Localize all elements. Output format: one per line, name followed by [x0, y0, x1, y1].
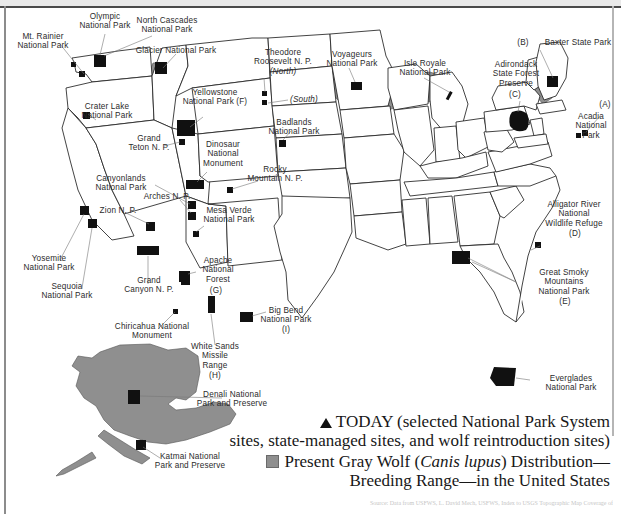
label-isle-royale: Isle Royale National Park — [390, 59, 460, 78]
label-dinosaur: Dinosaur National Monument — [188, 140, 258, 168]
label-great-smoky-key: (E) — [550, 297, 580, 306]
legend-range-scientific-name: Canis lupus — [420, 452, 501, 471]
legend-range-line1-a: Present Gray Wolf ( — [284, 452, 420, 471]
leader-everglades — [516, 378, 530, 380]
state-louisiana — [354, 212, 406, 250]
map-page: .st{fill:#ffffff;stroke:#222;stroke-widt… — [0, 0, 621, 514]
site-marker-grand-canyon — [137, 246, 159, 255]
site-marker-adirondack — [509, 110, 528, 131]
site-marker-north-cascades — [94, 55, 106, 67]
site-marker-white-sands — [208, 296, 215, 313]
label-apache-key: (G) — [202, 286, 230, 295]
state-missouri — [344, 134, 404, 184]
site-marker-katmai — [136, 440, 146, 450]
site-marker-sequoia — [88, 219, 97, 228]
label-arches: Arches N. P. — [138, 192, 196, 201]
label-alligator-river: Alligator River National Wildlife Refuge — [528, 200, 620, 228]
site-marker-everglades — [490, 367, 516, 386]
site-marker-great-smoky — [452, 251, 470, 264]
state-alabama — [428, 196, 458, 244]
label-white-sands-key: (H) — [200, 371, 230, 380]
label-white-sands: White Sands Missile Range — [168, 342, 262, 370]
label-mesa-verde: Mesa Verde National Park — [192, 206, 266, 225]
label-acadia: Acadia National Park — [564, 112, 618, 140]
label-chiricahua: Chiricahua National Monument — [92, 322, 212, 341]
legend-today-row: TODAY (selected National Park System sit… — [200, 412, 610, 450]
legend-range-line1-b: ) Distribution— — [501, 452, 610, 471]
legend-today-line2: sites, state-managed sites, and wolf rei… — [200, 431, 610, 450]
label-theodore-roosevelt-south: (South) — [274, 95, 334, 104]
label-great-smoky: Great Smoky Mountains National Park — [518, 268, 610, 296]
label-yellowstone: Yellowstone National Park (F) — [160, 88, 270, 107]
source-credit-line: Source: Data from USFWS, L. David Mech, … — [205, 500, 613, 510]
label-canyonlands: Canyonlands National Park — [82, 174, 160, 193]
label-big-bend: Big Bend National Park — [248, 306, 324, 325]
label-adirondack: Adirondack State Forest Preserve — [478, 60, 554, 88]
label-voyageurs: Voyageurs National Park — [312, 50, 392, 69]
label-glacier: Glacier National Park — [118, 46, 234, 55]
site-marker-denali — [128, 390, 140, 404]
label-big-bend-key: (I) — [272, 325, 300, 334]
label-rocky-mountain: Rocky Mountain N. P. — [236, 165, 314, 184]
legend-range-row: Present Gray Wolf (Canis lupus) Distribu… — [200, 452, 610, 490]
label-sequoia: Sequoia National Park — [30, 282, 104, 301]
label-alligator-river-key: (D) — [560, 229, 590, 238]
label-grand-teton: Grand Teton N. P. — [118, 134, 180, 153]
state-massachusetts — [536, 100, 566, 114]
label-crater-lake: Crater Lake National Park — [62, 102, 152, 121]
label-baxter-key: (B) — [512, 38, 534, 47]
site-marker-voyageurs — [351, 82, 362, 90]
state-minnesota — [330, 30, 396, 110]
state-indiana — [434, 126, 460, 162]
label-theodore-roosevelt-north: (North) — [250, 67, 316, 76]
state-texas — [274, 196, 352, 318]
leader-olympic — [100, 34, 105, 55]
site-marker-dinosaur — [186, 180, 204, 189]
site-marker-badlands — [279, 140, 286, 147]
label-badlands: Badlands National Park — [256, 118, 332, 137]
state-arkansas — [350, 180, 402, 216]
map-legend: TODAY (selected National Park System sit… — [200, 412, 610, 490]
site-marker-rocky-mountain — [227, 187, 233, 193]
label-mt-rainier: Mt. Rainier National Park — [0, 32, 86, 51]
legend-range-line2: Breeding Range—in the United States — [200, 471, 610, 490]
label-acadia-key: (A) — [592, 100, 618, 109]
state-mississippi — [402, 198, 430, 246]
label-zion: Zion N. P. — [92, 206, 144, 215]
label-apache: Apache National Forest — [186, 256, 250, 284]
label-adirondack-key: (C) — [500, 90, 530, 99]
label-denali: Denali National Park and Preserve — [180, 390, 284, 409]
label-everglades: Everglades National Park — [532, 374, 610, 393]
label-baxter: Baxter State Park — [536, 38, 620, 47]
state-iowa — [340, 106, 394, 138]
site-marker-yosemite — [80, 206, 89, 215]
legend-today-line1: TODAY (selected National Park System — [336, 412, 610, 431]
triangle-marker-icon — [320, 418, 332, 428]
state-new-jersey — [530, 118, 544, 136]
wolf-range-aleutians — [56, 452, 96, 476]
site-marker-glacier — [155, 62, 167, 74]
label-north-cascades: North Cascades National Park — [120, 16, 214, 35]
label-yosemite: Yosemite National Park — [10, 254, 88, 273]
label-grand-canyon: Grand Canyon N. P. — [114, 276, 184, 295]
gray-square-marker-icon — [266, 455, 279, 468]
